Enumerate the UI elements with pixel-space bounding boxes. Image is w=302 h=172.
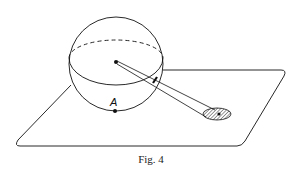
plane <box>16 70 285 146</box>
shadow-center-point <box>217 112 220 115</box>
equator-back <box>69 40 163 58</box>
point-a <box>113 109 117 113</box>
figure-canvas: A <box>0 0 302 172</box>
shadow-ellipse <box>203 108 231 120</box>
point-a-label: A <box>109 96 117 108</box>
center-point <box>114 60 118 64</box>
figure-caption: Fig. 4 <box>0 153 302 165</box>
